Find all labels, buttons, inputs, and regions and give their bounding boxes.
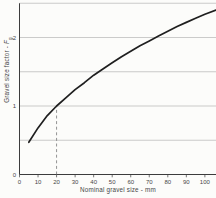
y-tick-label: 1 <box>13 103 17 109</box>
y-tick-label: 2 <box>13 35 17 41</box>
x-tick-label: 10 <box>35 179 42 185</box>
x-tick-label: 60 <box>127 179 134 185</box>
x-tick-label: 100 <box>200 179 211 185</box>
plot-area: 0102030405060708090100012 <box>0 0 216 198</box>
x-tick-label: 80 <box>164 179 171 185</box>
y-axis-label-subscript: g <box>8 37 13 40</box>
y-tick-label: 0 <box>13 172 17 178</box>
x-tick-label: 50 <box>109 179 116 185</box>
x-tick-label: 30 <box>72 179 79 185</box>
y-axis-label-symbol: F <box>3 40 10 44</box>
gravel-size-factor-chart: 0102030405060708090100012 Gravel size fa… <box>0 0 216 198</box>
x-tick-label: 20 <box>53 179 60 185</box>
y-axis-label: Gravel size factor - Fg <box>3 37 12 103</box>
x-tick-label: 40 <box>90 179 97 185</box>
x-tick-label: 90 <box>183 179 190 185</box>
x-axis-label: Nominal gravel size - mm <box>80 186 156 193</box>
y-axis-label-text: Gravel size factor - <box>3 44 10 103</box>
x-tick-label: 70 <box>146 179 153 185</box>
x-tick-label: 0 <box>18 179 22 185</box>
